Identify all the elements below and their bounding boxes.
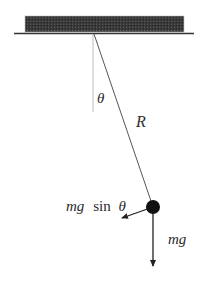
weight-label: mg <box>168 231 187 247</box>
pendulum-diagram: θ R mg sin θ mg <box>0 0 209 282</box>
tangential-force-sin: sin <box>93 198 111 214</box>
tangential-force-label: mg sin θ <box>66 197 126 215</box>
length-label: R <box>135 113 146 130</box>
tangential-force-mg: mg <box>66 198 85 214</box>
tangential-force-theta: θ <box>118 198 126 214</box>
angle-label: θ <box>97 90 105 106</box>
ceiling-block <box>25 16 184 32</box>
pendulum-bob <box>146 200 160 214</box>
